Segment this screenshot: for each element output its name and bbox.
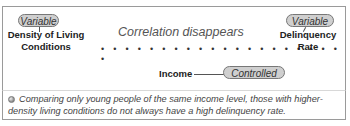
left-variable-label: Density of Living Conditions: [2, 29, 90, 53]
left-variable-badge: Variable: [18, 14, 59, 27]
bullet-icon: [8, 96, 15, 103]
right-variable-label: Delinquency Rate: [268, 29, 348, 53]
diagram-title: Correlation disappears: [118, 25, 244, 39]
control-connector: [194, 74, 224, 75]
control-variable-label: Income: [159, 68, 192, 80]
controlled-badge: Controlled: [223, 66, 285, 79]
right-variable-badge: Variable: [286, 14, 334, 27]
explanation-note: Comparing only young people of the same …: [8, 93, 343, 117]
